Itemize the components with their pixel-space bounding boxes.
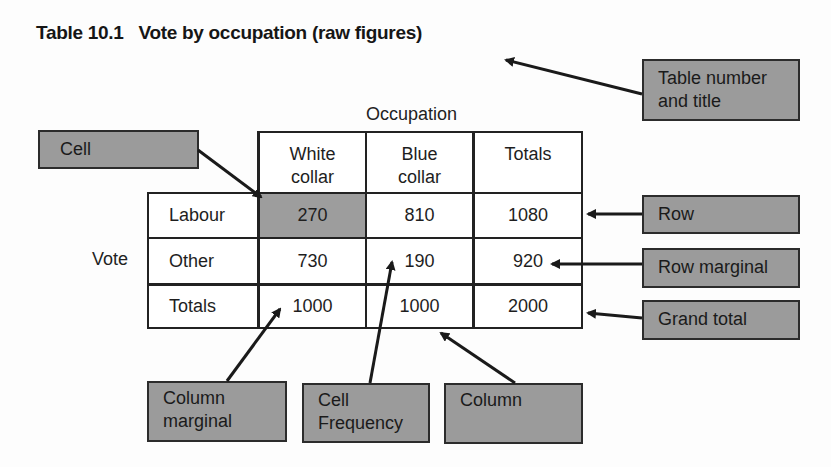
cell-totals-white-collar: 1000 bbox=[257, 283, 367, 329]
cell-labour-totals: 1080 bbox=[472, 192, 583, 239]
cell-grand-total: 2000 bbox=[472, 283, 583, 329]
table-title: Table 10.1 Vote by occupation (raw figur… bbox=[36, 22, 422, 44]
annotation-column-marginal: Column marginal bbox=[147, 381, 287, 442]
annotation-grand-total: Grand total bbox=[642, 300, 800, 340]
annotation-text: Row marginal bbox=[658, 256, 768, 279]
arrow-grand-total bbox=[588, 313, 642, 318]
row-label-labour: Labour bbox=[147, 192, 259, 239]
arrow-table-title bbox=[506, 60, 642, 94]
cell-other-blue-collar: 190 bbox=[365, 237, 474, 285]
annotation-text: Frequency bbox=[318, 413, 403, 433]
cell-labour-white-collar: 270 bbox=[257, 192, 367, 239]
row-label-text: Totals bbox=[169, 295, 216, 318]
annotation-text: Column bbox=[460, 390, 522, 410]
cell-value: 730 bbox=[297, 250, 327, 273]
cell-totals-blue-collar: 1000 bbox=[365, 283, 474, 329]
annotation-text: marginal bbox=[163, 411, 232, 431]
annotation-cell-frequency: Cell Frequency bbox=[302, 383, 430, 443]
header-line: collar bbox=[291, 167, 334, 187]
column-variable-label: Occupation bbox=[366, 104, 457, 125]
arrow-column bbox=[441, 333, 515, 383]
annotation-text: Cell bbox=[60, 138, 91, 161]
annotation-cell: Cell bbox=[38, 130, 199, 169]
cell-other-totals: 920 bbox=[472, 237, 583, 285]
cell-labour-blue-collar: 810 bbox=[365, 192, 474, 239]
row-label-text: Labour bbox=[169, 204, 225, 227]
annotation-row-marginal: Row marginal bbox=[642, 248, 800, 288]
cell-value: 1080 bbox=[508, 204, 548, 227]
cell-value: 1000 bbox=[292, 295, 332, 318]
annotation-text: Column bbox=[163, 388, 225, 408]
cell-other-white-collar: 730 bbox=[257, 237, 367, 285]
row-label-totals: Totals bbox=[147, 283, 259, 329]
annotation-text: and title bbox=[658, 91, 721, 111]
table-title-text: Vote by occupation (raw figures) bbox=[138, 22, 422, 43]
annotation-table-title: Table number and title bbox=[642, 59, 800, 121]
cell-value: 190 bbox=[404, 250, 434, 273]
header-line: Blue bbox=[401, 144, 437, 164]
cell-value: 2000 bbox=[508, 295, 548, 318]
annotation-column: Column bbox=[444, 383, 583, 444]
annotation-text: Grand total bbox=[658, 308, 747, 331]
header-line: Totals bbox=[504, 143, 551, 166]
annotation-text: Cell bbox=[318, 390, 349, 410]
annotation-text: Row bbox=[658, 203, 694, 226]
annotation-text: Table number bbox=[658, 68, 767, 88]
arrow-cell bbox=[198, 150, 261, 197]
cell-value: 810 bbox=[404, 204, 434, 227]
table-number: Table 10.1 bbox=[36, 22, 123, 43]
header-white-collar: Whitecollar bbox=[257, 131, 367, 194]
cell-value: 920 bbox=[513, 250, 543, 273]
cell-value: 1000 bbox=[399, 295, 439, 318]
annotation-row: Row bbox=[642, 195, 800, 234]
header-totals: Totals bbox=[472, 131, 583, 194]
header-line: collar bbox=[398, 167, 441, 187]
row-label-other: Other bbox=[147, 237, 259, 285]
row-label-text: Other bbox=[169, 250, 214, 273]
header-line: White bbox=[289, 144, 335, 164]
row-variable-label: Vote bbox=[92, 249, 128, 270]
cell-value: 270 bbox=[297, 204, 327, 227]
header-blue-collar: Bluecollar bbox=[365, 131, 474, 194]
